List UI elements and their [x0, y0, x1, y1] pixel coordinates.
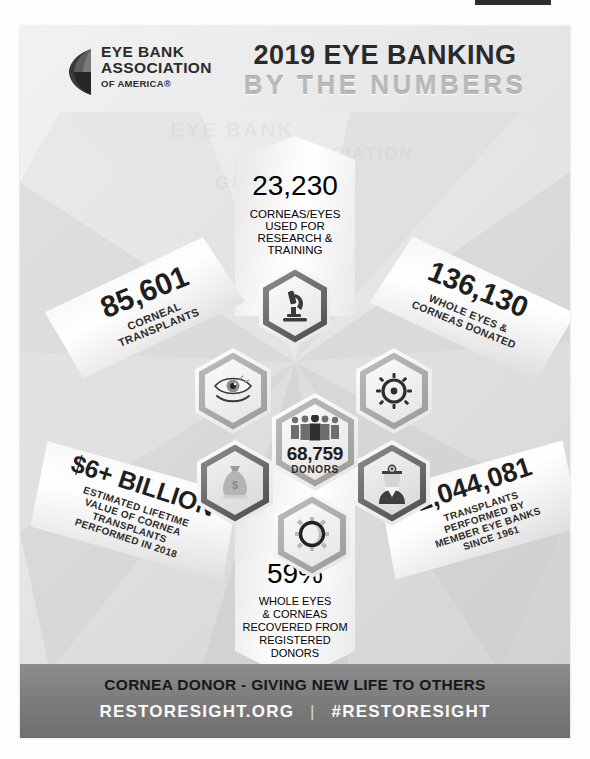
hex-registered-donors[interactable]	[274, 492, 350, 578]
hex-lifetime-value[interactable]: $	[197, 440, 273, 526]
hashtag-link[interactable]: #RESTORESIGHT	[332, 702, 491, 721]
center-stat: 68,759 DONORS	[272, 443, 358, 475]
footer-separator: |	[300, 702, 326, 721]
stat-label-line: USED FOR	[235, 220, 355, 232]
hex-eyes-corneas-donated[interactable]	[356, 348, 432, 434]
stat-label-line: RECOVERED FROM	[235, 621, 355, 634]
footer-tagline: CORNEA DONOR - GIVING NEW LIFE TO OTHERS	[20, 676, 570, 694]
logo-line-1: EYE BANK	[101, 44, 221, 60]
hex-corneal-transplants[interactable]	[195, 348, 271, 434]
stat-label-line: CORNEAS/EYES	[235, 208, 355, 220]
surgeon-icon	[376, 462, 408, 504]
stat-label-line: RESEARCH &	[235, 232, 355, 244]
hex-research-training[interactable]	[259, 265, 331, 347]
stat-label-line: REGISTERED	[235, 634, 355, 647]
svg-text:$: $	[232, 479, 238, 491]
poster-footer: CORNEA DONOR - GIVING NEW LIFE TO OTHERS…	[20, 664, 570, 738]
hex-center-donors[interactable]: 68,759 DONORS	[272, 393, 358, 491]
money-bag-icon: $	[221, 465, 249, 501]
scan-edge-artifact	[475, 0, 551, 5]
stat-label-line: WHOLE EYES	[235, 595, 355, 608]
title-line-1: 2019 EYE BANKING	[215, 40, 555, 70]
poster-title: 2019 EYE BANKING BY THE NUMBERS	[215, 40, 555, 100]
stat-value-research-training: 23,230	[235, 170, 355, 202]
cornea-rays-icon	[376, 373, 412, 409]
stat-label-line: & CORNEAS	[235, 608, 355, 621]
center-stat-label: DONORS	[272, 464, 358, 475]
infographic-poster: EYE BANK ASSOCIATION GENERAL EYE BANK AS…	[20, 26, 570, 738]
center-stat-value: 68,759	[272, 443, 358, 465]
poster-header: EYE BANK ASSOCIATION OF AMERICA® 2019 EY…	[20, 26, 570, 112]
website-link[interactable]: RESTORESIGHT.ORG	[100, 702, 295, 721]
footer-links: RESTORESIGHT.ORG | #RESTORESIGHT	[20, 702, 570, 722]
hex-transplants-since-1961[interactable]	[354, 440, 430, 526]
eye-icon	[213, 374, 253, 406]
scanned-page: EYE BANK ASSOCIATION GENERAL EYE BANK AS…	[0, 0, 590, 759]
eba-logo: EYE BANK ASSOCIATION OF AMERICA®	[65, 44, 215, 102]
stat-label-line: DONORS	[235, 647, 355, 660]
eba-logo-text: EYE BANK ASSOCIATION OF AMERICA®	[101, 44, 221, 89]
cornea-ring-icon	[295, 517, 329, 551]
people-group-icon	[290, 415, 340, 441]
stat-label-line: TRAINING	[235, 244, 355, 256]
microscope-icon	[280, 288, 310, 324]
title-line-2: BY THE NUMBERS	[215, 70, 555, 100]
logo-line-3: OF AMERICA®	[101, 78, 221, 89]
logo-line-2: ASSOCIATION	[101, 60, 221, 76]
eye-globe-icon	[65, 47, 95, 97]
